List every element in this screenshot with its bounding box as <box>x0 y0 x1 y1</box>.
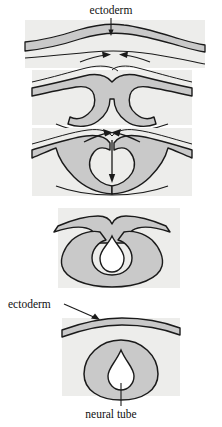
neural-tube-formation-figure: ectoderm <box>0 0 222 427</box>
neural-tube-label: neural tube <box>85 408 136 420</box>
ectoderm-bottom-label-group: ectoderm <box>8 298 100 320</box>
panel-neural-folds-converging <box>32 128 192 196</box>
panel-neural-tube-closing <box>54 208 180 288</box>
ectoderm-bottom-leader-line <box>64 304 96 318</box>
ectoderm-top-label: ectoderm <box>90 4 133 16</box>
panel-flat-neural-plate <box>25 20 205 68</box>
ectoderm-bottom-label: ectoderm <box>8 298 51 310</box>
panel-neural-groove <box>32 66 192 133</box>
